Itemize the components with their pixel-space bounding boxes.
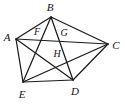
point-label-g: G [60,28,67,38]
segment-ad [16,39,73,80]
point-label-h: H [53,49,60,59]
point-label-a: A [4,32,11,43]
point-label-b: B [47,2,54,13]
segment-cd [73,44,108,80]
segment-ac [16,39,108,44]
point-label-f: F [34,27,40,37]
point-label-c: C [112,40,119,51]
segment-de [23,80,73,82]
point-label-d: D [71,86,79,97]
segment-ea [16,39,23,82]
point-label-e: E [19,89,26,100]
segment-ec [23,44,108,82]
geometry-figure: ABCDEFGH [0,0,125,105]
